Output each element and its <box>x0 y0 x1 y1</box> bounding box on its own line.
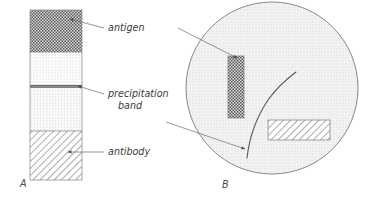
panel-label-a: A <box>19 178 27 189</box>
tube-segment-upper-clear-zone <box>30 52 82 85</box>
tube-segment-lower-clear-zone <box>30 88 82 131</box>
label-antibody: antibody <box>108 146 150 157</box>
tube-segment-antibody <box>30 131 82 180</box>
immunodiffusion-figure: antigen precipitation band antibody A B <box>0 0 375 203</box>
inset-antibody-block <box>268 120 330 140</box>
inset-circle <box>186 2 358 174</box>
label-antigen: antigen <box>108 22 144 33</box>
tube-segment-antigen <box>30 10 82 52</box>
label-precipitation-band-line2: band <box>118 100 143 111</box>
inset-panel-b <box>186 2 358 174</box>
inset-antigen-block <box>228 56 244 118</box>
label-precipitation-band-line1: precipitation <box>107 88 169 99</box>
tube-panel-a <box>30 10 82 180</box>
panel-label-b: B <box>222 179 229 190</box>
